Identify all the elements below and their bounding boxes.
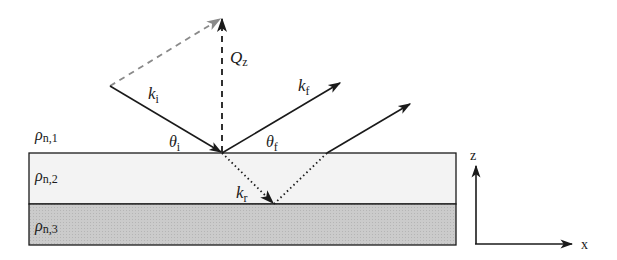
ki-vector: [110, 86, 221, 152]
layer-1-label: ρn,1: [34, 126, 58, 145]
ki-label: ki: [148, 84, 160, 106]
qz-label: Qz: [230, 48, 248, 69]
second-exit-beam: [327, 104, 410, 153]
z-axis-label: z: [470, 148, 476, 163]
reflectometry-diagram: Qz ki kf kr θi θf ρn,1 ρn,2 ρn,3 z x: [0, 0, 617, 260]
theta-i-label: θi: [169, 133, 181, 154]
kf-label: kf: [298, 76, 310, 98]
x-axis-label: x: [581, 237, 588, 252]
theta-f-label: θf: [266, 133, 278, 154]
layer-3-region: [29, 204, 456, 245]
dashed-kf-translated: [110, 19, 220, 86]
kf-vector: [222, 83, 340, 153]
